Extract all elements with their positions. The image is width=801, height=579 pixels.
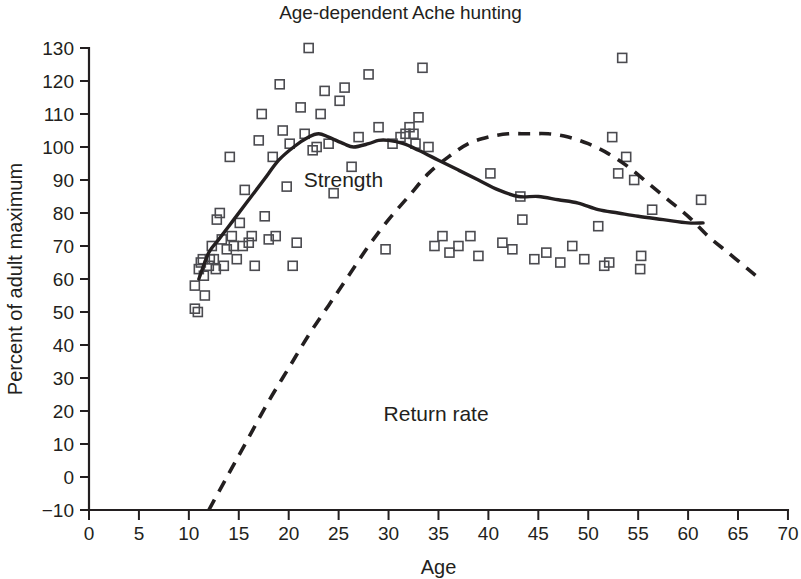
data-point [193, 308, 202, 317]
x-tick-label: 25 [328, 523, 349, 544]
data-point [614, 169, 623, 178]
y-tick-label: 120 [42, 71, 74, 92]
data-point [381, 245, 390, 254]
x-tick-label: 40 [478, 523, 499, 544]
data-point [445, 248, 454, 257]
data-point [474, 251, 483, 260]
data-point [296, 103, 305, 112]
y-tick-label: 60 [53, 269, 74, 290]
data-point [354, 133, 363, 142]
axis-lines [89, 48, 788, 510]
data-point [580, 255, 589, 264]
data-point [430, 242, 439, 251]
data-point [630, 176, 639, 185]
data-point [418, 63, 427, 72]
data-point [618, 53, 627, 62]
data-point [424, 143, 433, 152]
data-point [364, 70, 373, 79]
y-tick-label: 130 [42, 38, 74, 59]
x-tick-label: 65 [727, 523, 748, 544]
data-point [304, 44, 313, 53]
x-tick-label: 35 [428, 523, 449, 544]
data-point [518, 215, 527, 224]
data-point [288, 261, 297, 270]
data-point [257, 110, 266, 119]
data-point [292, 238, 301, 247]
data-point [275, 80, 284, 89]
x-axis-ticks: 0510152025303540455055606570 [84, 510, 799, 544]
data-point [454, 242, 463, 251]
data-point [542, 248, 551, 257]
data-point [282, 182, 291, 191]
data-point [225, 152, 234, 161]
data-point [414, 113, 423, 122]
data-point [278, 126, 287, 135]
y-tick-label: 100 [42, 137, 74, 158]
x-tick-label: 15 [228, 523, 249, 544]
data-point [438, 232, 447, 241]
data-point [238, 242, 247, 251]
data-point [637, 251, 646, 260]
data-point [316, 110, 325, 119]
y-tick-label: −10 [42, 500, 74, 521]
x-tick-label: 60 [678, 523, 699, 544]
y-axis-ticks: −100102030405060708090100110120130 [42, 38, 89, 521]
data-point [240, 185, 249, 194]
data-point [324, 139, 333, 148]
data-point [648, 205, 657, 214]
data-point [697, 195, 706, 204]
y-axis-title: Percent of adult maximum [4, 163, 26, 395]
series-label-strength: Strength [304, 168, 383, 191]
x-tick-label: 0 [84, 523, 95, 544]
y-tick-label: 20 [53, 401, 74, 422]
data-point [556, 258, 565, 267]
x-tick-label: 30 [378, 523, 399, 544]
trend-curve-group [199, 134, 760, 510]
series-annotation-group: StrengthReturn rate [304, 168, 489, 425]
data-point [200, 291, 209, 300]
x-tick-label: 5 [134, 523, 145, 544]
data-point [508, 245, 517, 254]
data-point [190, 281, 199, 290]
data-point [247, 232, 256, 241]
y-tick-label: 40 [53, 335, 74, 356]
data-point [232, 255, 241, 264]
x-tick-label: 55 [628, 523, 649, 544]
data-point [250, 261, 259, 270]
y-tick-label: 90 [53, 170, 74, 191]
y-tick-label: 110 [44, 104, 74, 125]
data-point-group [190, 44, 705, 317]
data-point [320, 86, 329, 95]
x-axis-title: Age [421, 556, 457, 578]
data-point [260, 212, 269, 221]
data-point [622, 152, 631, 161]
data-point [608, 133, 617, 142]
data-point [636, 265, 645, 274]
x-tick-label: 10 [178, 523, 199, 544]
series-label-return-rate: Return rate [384, 402, 489, 425]
x-tick-label: 50 [578, 523, 599, 544]
chart-page: Age-dependent Ache hunting −100102030405… [0, 0, 801, 579]
data-point [486, 169, 495, 178]
data-point [212, 215, 221, 224]
y-tick-label: 70 [53, 236, 74, 257]
x-tick-label: 20 [278, 523, 299, 544]
y-tick-label: 0 [63, 467, 74, 488]
data-point [335, 96, 344, 105]
data-point [498, 238, 507, 247]
y-tick-label: 10 [53, 434, 74, 455]
data-point [594, 222, 603, 231]
x-tick-label: 70 [777, 523, 798, 544]
y-tick-label: 30 [53, 368, 74, 389]
data-point [530, 255, 539, 264]
data-point [340, 83, 349, 92]
data-point [215, 209, 224, 218]
data-point [244, 238, 253, 247]
data-point [254, 136, 263, 145]
data-point [235, 218, 244, 227]
data-point [227, 232, 236, 241]
data-point [568, 242, 577, 251]
data-point [268, 152, 277, 161]
scatter-plot: −100102030405060708090100110120130 05101… [0, 0, 801, 579]
data-point [190, 304, 199, 313]
